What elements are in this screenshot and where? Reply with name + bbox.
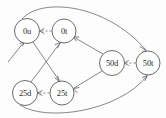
node-layer: 0u 0t 25d 25t 50d 50t xyxy=(13,19,161,106)
node-0t[interactable]: 0t xyxy=(52,19,76,43)
node-25d[interactable]: 25d xyxy=(13,81,38,106)
edge-external-to-0u xyxy=(8,41,24,62)
node-50t[interactable]: 50t xyxy=(136,51,160,75)
node-25t[interactable]: 25t xyxy=(50,81,74,105)
node-0u-label: 0u xyxy=(23,26,32,36)
edge-50t-to-50d xyxy=(124,61,135,66)
node-25d-label: 25d xyxy=(19,88,32,98)
edge-0u-to-50t xyxy=(22,7,147,52)
node-0t-label: 0t xyxy=(61,26,68,36)
node-0u[interactable]: 0u xyxy=(15,19,40,44)
edge-50d-to-25t xyxy=(73,71,102,93)
edge-25t-to-25d xyxy=(38,91,50,96)
edge-0t-to-0u xyxy=(40,29,52,34)
edge-25d-to-50t xyxy=(20,76,147,114)
graph-canvas: 0u 0t 25d 25t 50d 50t xyxy=(0,0,166,118)
node-50t-label: 50t xyxy=(143,58,154,68)
edge-50d-to-0t xyxy=(73,36,103,54)
node-50d-label: 50d xyxy=(106,58,119,68)
diagram-container: 0u 0t 25d 25t 50d 50t xyxy=(0,0,166,118)
node-50d[interactable]: 50d xyxy=(100,51,125,76)
node-25t-label: 25t xyxy=(57,88,68,98)
